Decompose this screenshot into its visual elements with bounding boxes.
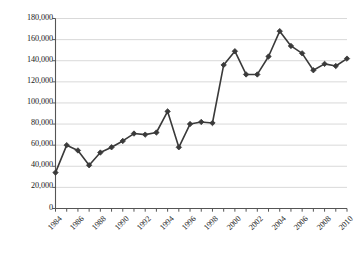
gridlines	[56, 19, 348, 188]
y-axis-tick-label-text: 100,000	[1, 98, 53, 106]
data-point-marker	[53, 170, 58, 175]
data-point-marker	[64, 142, 69, 147]
data-point-marker	[210, 120, 215, 125]
y-axis-tick-label: 0	[0, 204, 53, 214]
y-axis-tick-label: 180,000	[0, 14, 53, 24]
axis-lines	[56, 19, 348, 209]
data-point-marker	[142, 132, 147, 137]
y-axis-tick-label-text: 120,000	[1, 77, 53, 85]
y-axis-tick-label-text: 20,000	[1, 182, 53, 190]
y-axis-tick-label: 140,000	[0, 56, 53, 66]
y-axis-tick-label-text: 80,000	[1, 119, 53, 127]
y-axis-tick-label: 120,000	[0, 77, 53, 87]
y-axis-tick-label: 40,000	[0, 161, 53, 171]
y-axis-tick-label: 80,000	[0, 119, 53, 129]
y-axis-tick-label-text: 180,000	[1, 14, 53, 22]
y-axis-tick-label: 20,000	[0, 182, 53, 192]
y-axis-tick-label: 60,000	[0, 140, 53, 150]
y-axis-tick-label-text: 0	[1, 204, 53, 212]
y-axis-tick-label-text: 60,000	[1, 140, 53, 148]
y-axis-tick-label-text: 40,000	[1, 161, 53, 169]
y-axis-tick-label: 160,000	[0, 35, 53, 45]
data-series-markers	[53, 28, 350, 175]
line-chart: 020,00040,00060,00080,000100,000120,0001…	[0, 0, 359, 257]
y-axis-tick-label-text: 160,000	[1, 35, 53, 43]
data-point-marker	[187, 121, 192, 126]
y-axis-tick-label-text: 140,000	[1, 56, 53, 64]
y-axis-tick-label: 100,000	[0, 98, 53, 108]
data-point-marker	[243, 72, 248, 77]
